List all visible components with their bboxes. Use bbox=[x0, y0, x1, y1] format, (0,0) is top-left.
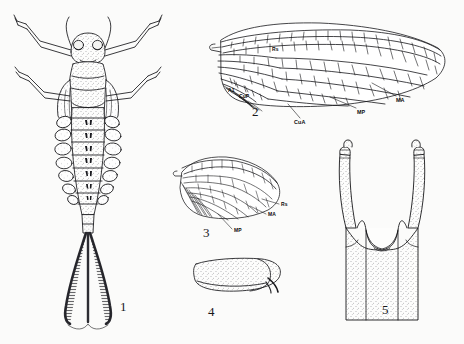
hindwing-base-stub bbox=[173, 171, 182, 176]
vein-label-rs: Rs bbox=[272, 47, 279, 52]
midleg-right-tarsus bbox=[147, 72, 157, 81]
figure-number-4: 4 bbox=[208, 305, 215, 318]
forceps-right-segment-2 bbox=[414, 147, 425, 155]
figure-2-forewing bbox=[210, 23, 445, 118]
figure-number-5: 5 bbox=[382, 303, 389, 316]
vein-label-cup: CuP bbox=[239, 94, 249, 99]
forceps-right-apical bbox=[412, 140, 421, 147]
vein-label-cua: CuA bbox=[294, 120, 305, 125]
forceps-left-apical bbox=[344, 140, 353, 147]
forceps-right-basal bbox=[408, 154, 425, 228]
hindwing-label-rs: Rs bbox=[281, 202, 288, 207]
vein-label-mp: MP bbox=[357, 110, 365, 115]
forewing-base-stub bbox=[210, 44, 221, 52]
foreleg-left-claw bbox=[14, 15, 18, 25]
illustration-plate: 1 2 3 4 5 A1 CuP CuA MP MA Rs Rs MA MP bbox=[0, 0, 464, 344]
forceps-left-segment-2 bbox=[340, 147, 351, 155]
penis-lobes bbox=[357, 221, 407, 250]
cercus-right bbox=[90, 233, 111, 324]
midleg-left-claw bbox=[15, 67, 20, 77]
figure-number-3: 3 bbox=[203, 226, 210, 239]
foreleg-left-tarsus bbox=[17, 21, 27, 29]
figure-4-segment bbox=[194, 258, 281, 293]
foreleg-right-claw bbox=[158, 15, 162, 25]
filament-tips bbox=[68, 324, 108, 329]
hindwing-label-ma: MA bbox=[268, 212, 276, 217]
figure-3-hindwing bbox=[173, 157, 279, 229]
foreleg-right-tarsus bbox=[149, 21, 159, 29]
vein-label-a1: A1 bbox=[228, 88, 235, 93]
forewing-outline bbox=[221, 23, 445, 107]
midleg-left-tarsus bbox=[19, 72, 29, 81]
midleg-right-claw bbox=[156, 67, 161, 77]
plate-drawing bbox=[0, 0, 464, 344]
antenna-left bbox=[66, 17, 72, 48]
antenna-right bbox=[105, 17, 111, 48]
forceps-left-basal bbox=[339, 154, 356, 228]
thorax bbox=[69, 62, 107, 108]
vein-label-ma: MA bbox=[396, 98, 405, 103]
figure-5-male-genitalia bbox=[339, 140, 425, 320]
hindwing-label-mp: MP bbox=[234, 228, 242, 233]
figure-number-2: 2 bbox=[252, 105, 259, 118]
figure-1-nymph bbox=[14, 15, 162, 329]
cercus-left bbox=[65, 233, 86, 324]
figure-number-1: 1 bbox=[120, 300, 127, 313]
forewing-base-line bbox=[212, 47, 221, 48]
